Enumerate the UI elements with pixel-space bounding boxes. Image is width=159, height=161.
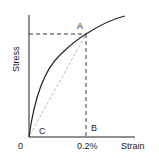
stress-strain-diagram: A B C 0 0.2% Strain Stress xyxy=(0,0,159,161)
point-a-label: A xyxy=(77,21,83,31)
x-axis-label: Strain xyxy=(121,141,145,151)
y-axis-label: Stress xyxy=(11,46,21,72)
point-c-label: C xyxy=(39,126,46,136)
offset-line xyxy=(30,34,86,135)
origin-label: 0 xyxy=(18,141,23,151)
point-b-label: B xyxy=(91,123,97,133)
x-tick-label: 0.2% xyxy=(77,141,98,151)
